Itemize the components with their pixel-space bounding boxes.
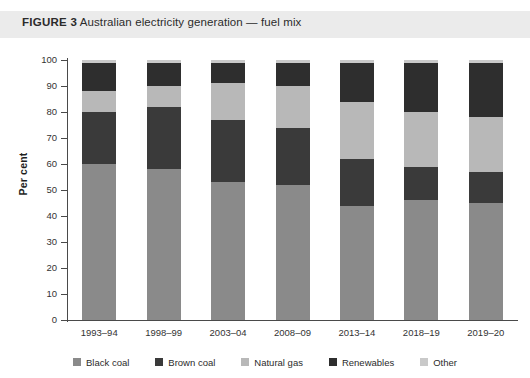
- stacked-bar: [340, 60, 374, 320]
- bar-segment: [276, 63, 310, 86]
- bar-segment: [404, 60, 438, 63]
- y-axis-tick-mark: [61, 164, 67, 165]
- bar-segment: [147, 169, 181, 320]
- legend-swatch-icon: [420, 358, 428, 366]
- stacked-bar: [147, 60, 181, 320]
- y-axis-tick-label-wrap: 70: [8, 138, 57, 139]
- legend-item: Black coal: [73, 357, 129, 368]
- bar-segment: [340, 159, 374, 206]
- bar-segment: [340, 102, 374, 159]
- bar-segment: [82, 91, 116, 112]
- bar-segment: [276, 86, 310, 128]
- bar-segment: [469, 60, 503, 63]
- y-axis-tick-mark: [61, 60, 67, 61]
- bar-segment: [147, 63, 181, 86]
- y-axis-tick-label-wrap: 60: [8, 164, 57, 165]
- bar-segment: [469, 172, 503, 203]
- bar-segment: [404, 167, 438, 201]
- y-axis-tick-label: 20: [13, 262, 57, 273]
- y-axis-line: [67, 58, 68, 322]
- x-axis-tick-label: 2008–09: [258, 327, 328, 338]
- y-axis-tick-mark: [61, 294, 67, 295]
- y-axis-tick-mark: [61, 190, 67, 191]
- chart-legend: Black coalBrown coalNatural gasRenewable…: [0, 353, 530, 371]
- y-axis-tick-label-wrap: 100: [8, 60, 57, 61]
- y-axis-tick-label: 0: [13, 314, 57, 325]
- y-axis-tick-label-wrap: 90: [8, 86, 57, 87]
- x-axis-tick-label: 2003–04: [193, 327, 263, 338]
- y-axis-tick-label: 30: [13, 236, 57, 247]
- y-axis-tick-label-wrap: 40: [8, 216, 57, 217]
- legend-item: Renewables: [329, 357, 394, 368]
- legend-swatch-icon: [155, 358, 163, 366]
- legend-item-label: Natural gas: [254, 357, 303, 368]
- bar-segment: [211, 60, 245, 63]
- stacked-bar: [404, 60, 438, 320]
- y-axis-tick-mark: [61, 242, 67, 243]
- bar-segment: [340, 63, 374, 102]
- bar-segment: [82, 60, 116, 63]
- bar-segment: [147, 107, 181, 169]
- bar-segment: [147, 86, 181, 107]
- legend-item-label: Black coal: [86, 357, 129, 368]
- legend-item: Other: [420, 357, 457, 368]
- bar-segment: [276, 128, 310, 185]
- y-axis-tick-label-wrap: 20: [8, 268, 57, 269]
- legend-item-label: Renewables: [342, 357, 394, 368]
- y-axis-tick-mark: [61, 138, 67, 139]
- stacked-bar: [276, 60, 310, 320]
- bar-segment: [211, 63, 245, 84]
- bar-segment: [147, 60, 181, 63]
- y-axis-tick-label: 40: [13, 210, 57, 221]
- y-axis-tick-mark: [61, 86, 67, 87]
- y-axis-tick-label-wrap: 50: [8, 190, 57, 191]
- bar-segment: [276, 185, 310, 320]
- x-axis-tick-label: 2018–19: [386, 327, 456, 338]
- y-axis-tick-label: 70: [13, 132, 57, 143]
- chart-plot-area: Per cent 0102030405060708090100 1993–941…: [0, 0, 530, 378]
- legend-item: Natural gas: [241, 357, 303, 368]
- x-axis-tick-label: 1998–99: [129, 327, 199, 338]
- bar-segment: [469, 203, 503, 320]
- stacked-bar: [82, 60, 116, 320]
- figure-root: FIGURE 3 Australian electricity generati…: [0, 0, 530, 378]
- y-axis-tick-label-wrap: 0: [8, 320, 57, 321]
- y-axis-tick-label: 80: [13, 106, 57, 117]
- x-axis-line: [67, 320, 518, 321]
- y-axis-tick-mark: [61, 216, 67, 217]
- stacked-bar: [469, 60, 503, 320]
- legend-item-label: Brown coal: [168, 357, 215, 368]
- bar-segment: [404, 112, 438, 167]
- y-axis-tick-label: 100: [13, 54, 57, 65]
- y-axis-tick-label-wrap: 10: [8, 294, 57, 295]
- y-axis-tick-mark: [61, 112, 67, 113]
- bar-segment: [404, 200, 438, 320]
- y-axis-tick-label: 60: [13, 158, 57, 169]
- bar-segment: [340, 60, 374, 63]
- bar-segment: [469, 117, 503, 172]
- bar-segment: [211, 83, 245, 119]
- legend-item-label: Other: [433, 357, 457, 368]
- legend-item: Brown coal: [155, 357, 215, 368]
- x-axis-tick-label: 2019–20: [451, 327, 521, 338]
- bar-segment: [211, 120, 245, 182]
- y-axis-tick-label: 10: [13, 288, 57, 299]
- y-axis-tick-label-wrap: 80: [8, 112, 57, 113]
- bar-segment: [340, 206, 374, 320]
- legend-swatch-icon: [329, 358, 337, 366]
- bar-segment: [82, 112, 116, 164]
- bar-segment: [211, 182, 245, 320]
- y-axis-tick-label: 50: [13, 184, 57, 195]
- bar-segment: [404, 63, 438, 112]
- stacked-bar: [211, 60, 245, 320]
- y-axis-tick-mark: [61, 268, 67, 269]
- y-axis-tick-label: 90: [13, 80, 57, 91]
- y-axis-tick-label-wrap: 30: [8, 242, 57, 243]
- bar-segment: [469, 63, 503, 118]
- bar-segment: [82, 63, 116, 92]
- legend-swatch-icon: [73, 358, 81, 366]
- y-axis-tick-mark: [61, 320, 67, 321]
- x-axis-tick-label: 1993–94: [64, 327, 134, 338]
- bar-segment: [276, 60, 310, 63]
- bar-segment: [82, 164, 116, 320]
